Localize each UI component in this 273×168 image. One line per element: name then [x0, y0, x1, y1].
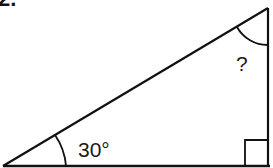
angle-label-unknown: ? [236, 52, 248, 75]
right-angle-marker [245, 140, 268, 166]
hypotenuse [3, 8, 268, 166]
angle-label-30: 30° [78, 138, 110, 161]
angle-arc-30 [55, 135, 66, 166]
right-triangle-diagram: 30° ? [0, 0, 273, 168]
angle-arc-unknown [237, 27, 268, 45]
